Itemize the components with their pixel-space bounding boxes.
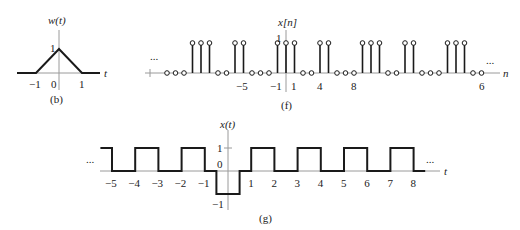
f-sample-marker [292, 41, 297, 46]
f-ellipsis-left: ... [150, 50, 159, 62]
f-y-tick-1: 1 [276, 32, 282, 44]
f-tick-8: 8 [351, 80, 357, 92]
g-y-tick-minus1: −1 [212, 198, 224, 210]
g-tick-label: 1 [248, 177, 254, 189]
f-sample-marker [258, 71, 263, 76]
f-sample-marker [199, 41, 204, 46]
f-sample-marker [369, 41, 374, 46]
f-sample-marker [411, 41, 416, 46]
f-sample-marker [250, 71, 255, 76]
f-sample-marker [445, 41, 450, 46]
g-tick-label: 6 [364, 177, 370, 189]
g-y-label: x(t) [219, 118, 236, 131]
f-sample-marker [207, 41, 212, 46]
f-caption: (f) [281, 99, 292, 112]
b-x-label: t [104, 67, 108, 79]
b-y-tick-1: 1 [50, 42, 56, 54]
g-tick-label: 4 [318, 177, 324, 189]
f-tick-4: 4 [317, 80, 323, 92]
f-tick-minus1: −1 [270, 80, 282, 92]
f-sample-marker [165, 71, 170, 76]
g-tick-label: −5 [105, 177, 117, 189]
g-caption: (g) [259, 212, 272, 225]
g-tick-label: 5 [341, 177, 347, 189]
f-tick-6: 6 [479, 80, 485, 92]
f-sample-marker [343, 71, 348, 76]
g-x-label: t [444, 165, 448, 177]
f-sample-marker [267, 71, 272, 76]
f-sample-marker [454, 41, 459, 46]
b-tick-1: 1 [79, 78, 85, 90]
g-tick-label: 2 [271, 177, 277, 189]
f-sample-marker [284, 41, 289, 46]
f-tick-1: 1 [291, 80, 297, 92]
b-tick-minus1: −1 [29, 78, 41, 90]
figure-f: ... ... x[n] n 1 −5 −1 1 4 8 6 (f) [145, 16, 509, 112]
b-caption: (b) [50, 93, 63, 106]
b-tick-0: 0 [51, 78, 57, 90]
g-y-tick-1: 1 [217, 142, 223, 154]
figure-canvas: w(t) t 1 −1 0 1 (b) ... ... x[n] n 1 −5 … [0, 0, 520, 230]
g-ellipsis-right: ... [426, 153, 435, 165]
f-sample-marker [437, 71, 442, 76]
f-sample-marker [309, 71, 314, 76]
f-sample-marker [403, 41, 408, 46]
f-sample-marker [216, 71, 221, 76]
f-sample-marker [420, 71, 425, 76]
f-sample-marker [190, 41, 195, 46]
g-ellipsis-left: ... [86, 153, 95, 165]
g-tick-label: 7 [387, 177, 393, 189]
f-sample-marker [241, 41, 246, 46]
f-sample-marker [326, 41, 331, 46]
f-sample-marker [233, 41, 238, 46]
g-tick-labels: −5−4−3−2−112345678 [105, 177, 417, 189]
f-ellipsis-right: ... [486, 54, 495, 66]
g-tick-label: −3 [151, 177, 163, 189]
f-sample-marker [462, 41, 467, 46]
f-sample-marker [360, 41, 365, 46]
f-x-label: n [503, 67, 509, 79]
f-sample-marker [377, 41, 382, 46]
f-sample-marker [182, 71, 187, 76]
f-sample-marker [428, 71, 433, 76]
g-tick-label: −1 [198, 177, 210, 189]
g-tick-label: −2 [175, 177, 187, 189]
g-y-tick-0: 0 [217, 158, 223, 170]
f-stem-plot [165, 41, 484, 76]
f-sample-marker [479, 71, 484, 76]
f-sample-marker [173, 71, 178, 76]
f-sample-marker [318, 41, 323, 46]
figure-b: w(t) t 1 −1 0 1 (b) [17, 14, 108, 106]
f-sample-marker [224, 71, 229, 76]
f-sample-marker [301, 71, 306, 76]
f-tick-minus5: −5 [236, 80, 248, 92]
g-tick-label: 3 [295, 177, 301, 189]
f-sample-marker [394, 71, 399, 76]
b-y-label: w(t) [48, 14, 66, 27]
f-y-label: x[n] [277, 16, 297, 28]
f-sample-marker [352, 71, 357, 76]
f-sample-marker [386, 71, 391, 76]
figure-g: ... ... x(t) t 1 0 −1 −5−4−3−2−112345678… [86, 118, 448, 225]
g-tick-label: 8 [411, 177, 417, 189]
f-sample-marker [471, 71, 476, 76]
g-tick-label: −4 [128, 177, 140, 189]
f-sample-marker [335, 71, 340, 76]
